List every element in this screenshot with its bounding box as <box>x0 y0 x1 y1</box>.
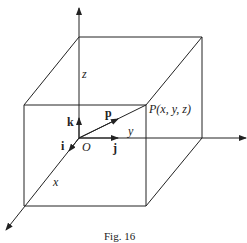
cube-diagram: z y x O k j i p P(x, y, z) Fig. 16 <box>0 0 247 243</box>
j-label: j <box>112 141 117 155</box>
i-label: i <box>61 139 65 153</box>
x-axis-label: x <box>52 175 59 189</box>
k-label: k <box>67 115 74 129</box>
y-axis-label: y <box>127 124 134 138</box>
x-axis <box>6 138 79 230</box>
figure-caption: Fig. 16 <box>104 230 136 242</box>
i-vector <box>69 138 79 151</box>
p-label: p <box>105 106 112 120</box>
z-axis-label: z <box>81 67 87 81</box>
p-arrow <box>79 119 118 138</box>
point-p-label: P(x, y, z) <box>148 102 191 116</box>
origin-label: O <box>82 140 91 154</box>
